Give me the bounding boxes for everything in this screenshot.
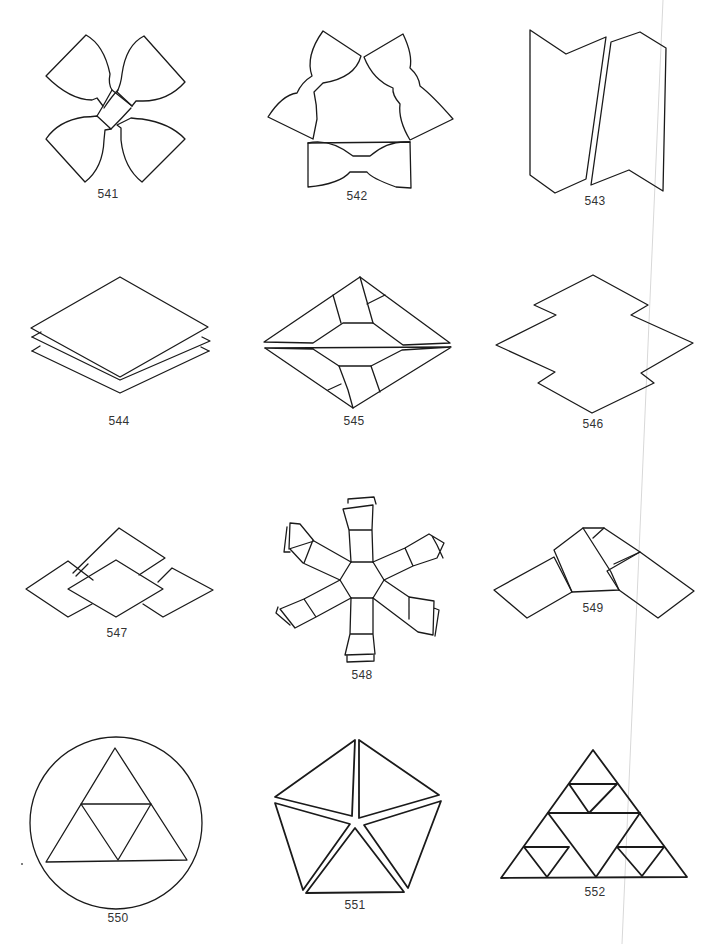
figure-546 [496, 275, 693, 413]
figure-label-551: 551 [345, 898, 366, 912]
figure-label-550: 550 [108, 911, 129, 925]
figure-label-545: 545 [344, 414, 365, 428]
figure-548 [276, 497, 444, 662]
figure-label-548: 548 [352, 668, 373, 682]
figure-label-542: 542 [347, 189, 368, 203]
figure-550 [30, 737, 202, 909]
gutter-line [622, 0, 663, 944]
figures-canvas [0, 0, 715, 944]
figure-label-543: 543 [585, 194, 606, 208]
figure-542 [268, 31, 453, 188]
figure-label-544: 544 [109, 414, 130, 428]
figure-label-549: 549 [583, 601, 604, 615]
figure-552 [501, 750, 687, 878]
figure-545 [264, 277, 451, 408]
figure-label-547: 547 [107, 626, 128, 640]
diagram-page: 541 542 543 544 545 546 547 548 549 550 … [0, 0, 715, 944]
figure-544 [31, 277, 210, 393]
figure-label-546: 546 [583, 417, 604, 431]
figure-551 [275, 740, 441, 893]
figure-547 [26, 528, 213, 617]
figure-label-552: 552 [585, 885, 606, 899]
figure-541 [46, 35, 185, 182]
figure-543 [530, 30, 666, 193]
ink-speck [21, 863, 23, 865]
figure-label-541: 541 [98, 187, 119, 201]
